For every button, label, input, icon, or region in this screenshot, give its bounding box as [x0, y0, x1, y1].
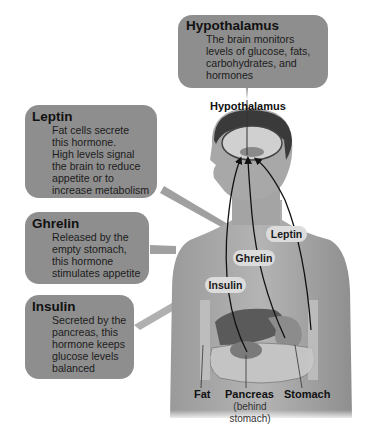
ghrelin-pill: Ghrelin — [233, 250, 275, 266]
insulin-callout-title: Insulin — [32, 299, 127, 314]
stomach-label: Stomach — [284, 388, 330, 400]
leptin-pill: Leptin — [266, 226, 307, 242]
hypothalamus-callout-body: The brain monitors levels of glucose, fa… — [206, 33, 320, 81]
fat-label: Fat — [194, 388, 211, 400]
hypothalamus-callout: Hypothalamus The brain monitors levels o… — [178, 15, 328, 88]
insulin-pill: Insulin — [205, 277, 246, 293]
ghrelin-callout: Ghrelin Released by the empty stomach, t… — [25, 212, 149, 284]
leptin-callout: Leptin Fat cells secrete this hormone. H… — [25, 105, 157, 198]
hypothalamus-connector — [246, 86, 248, 100]
appetite-hormones-diagram: Hypothalamus The brain monitors levels o… — [0, 0, 374, 437]
ghrelin-callout-body: Released by the empty stomach, this horm… — [52, 231, 142, 279]
hypothalamus-callout-title: Hypothalamus — [186, 18, 320, 33]
insulin-callout-body: Secreted by the pancreas, this hormone k… — [52, 314, 127, 374]
ghrelin-connector — [150, 245, 176, 254]
hypothalamus-label: Hypothalamus — [210, 100, 286, 112]
pancreas-note: (behind stomach) — [226, 401, 274, 424]
insulin-callout: Insulin Secreted by the pancreas, this h… — [25, 295, 134, 379]
ghrelin-callout-title: Ghrelin — [32, 216, 142, 231]
pancreas-label: Pancreas — [225, 388, 274, 400]
leptin-callout-title: Leptin — [32, 109, 150, 124]
leptin-callout-body: Fat cells secrete this hormone. High lev… — [52, 124, 150, 196]
